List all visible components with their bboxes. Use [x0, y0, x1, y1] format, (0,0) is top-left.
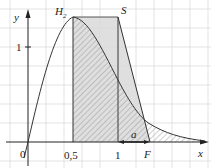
point-F-label: F — [143, 148, 151, 160]
point-S-label: S — [121, 4, 127, 16]
curve-label: H2 — [54, 5, 67, 20]
segment-a-label: a — [131, 128, 137, 140]
y-tick-label-1: 1 — [16, 41, 22, 53]
y-axis-arrow-icon — [26, 9, 31, 18]
y-axis-label: y — [13, 11, 19, 23]
origin-label: 0 — [20, 148, 26, 160]
x-axis-label: x — [197, 147, 203, 159]
x-tick-label-0-5: 0,5 — [64, 149, 78, 161]
function-graph: y x 1 0 0,5 1 H2 S F a — [0, 0, 211, 168]
x-tick-label-1: 1 — [115, 149, 121, 161]
